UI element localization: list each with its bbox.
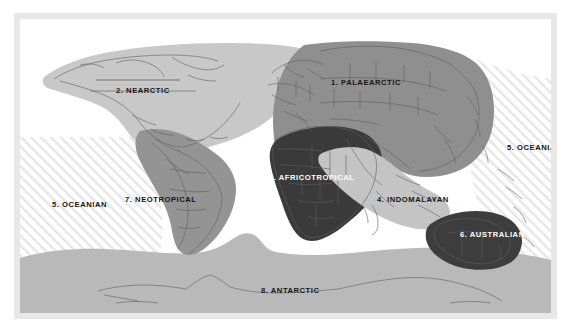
map-canvas: 1. PALAEARCTIC 2. NEARCTIC 3. AFRICOTROP… (20, 19, 551, 313)
realm-label-oceanian-east: 5. OCEANIAN (507, 144, 551, 152)
realm-label-neotropical: 7. NEOTROPICAL (125, 196, 196, 204)
biogeographic-realms-map-figure: 1. PALAEARCTIC 2. NEARCTIC 3. AFRICOTROP… (0, 0, 571, 332)
realm-label-oceanian-west: 5. OCEANIAN (52, 201, 107, 209)
realm-label-palaearctic: 1. PALAEARCTIC (331, 79, 401, 87)
realm-label-australian: 6. AUSTRALIAN (460, 231, 525, 239)
realm-label-antarctic: 8. ANTARCTIC (261, 287, 320, 295)
realm-label-africotropical: 3. AFRICOTROPICAL (269, 174, 354, 182)
world-map-graphic (20, 19, 551, 313)
realm-label-indomalayan: 4. INDOMALAYAN (377, 196, 449, 204)
realm-label-nearctic: 2. NEARCTIC (116, 87, 170, 95)
